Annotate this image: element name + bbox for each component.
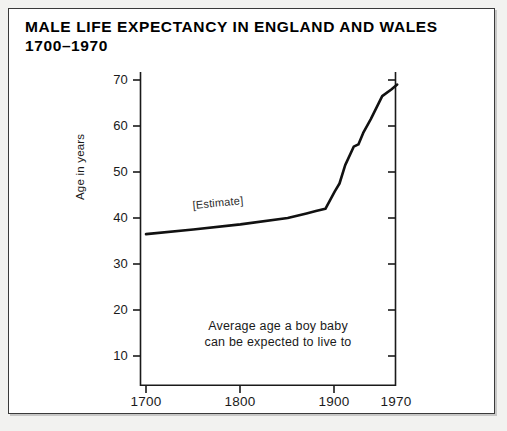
- chart-caption: Average age a boy baby can be expected t…: [183, 318, 373, 350]
- y-tick-label-10: 10: [94, 348, 128, 363]
- x-tick-label-1700: 1700: [116, 394, 176, 409]
- life-expectancy-line: [146, 85, 397, 235]
- y-tick-label-30: 30: [94, 256, 128, 271]
- y-tick-label-20: 20: [94, 302, 128, 317]
- x-axis-ticks: [146, 385, 334, 393]
- y-tick-label-70: 70: [94, 72, 128, 87]
- chart-caption-line-1: Average age a boy baby: [183, 318, 373, 334]
- y-axis-title: Age in years: [74, 134, 86, 200]
- y-tick-label-60: 60: [94, 118, 128, 133]
- x-tick-label-1970: 1970: [366, 394, 426, 409]
- x-tick-label-1900: 1900: [304, 394, 364, 409]
- x-tick-label-1800: 1800: [210, 394, 270, 409]
- y-tick-label-50: 50: [94, 164, 128, 179]
- plot-area: Age in years 70 60 50 40 30 20 10 1700 1…: [0, 0, 507, 431]
- y-tick-label-40: 40: [94, 210, 128, 225]
- chart-caption-line-2: can be expected to live to: [183, 334, 373, 350]
- figure-container: MALE LIFE EXPECTANCY IN ENGLAND AND WALE…: [0, 0, 507, 431]
- chart-svg: [0, 0, 507, 431]
